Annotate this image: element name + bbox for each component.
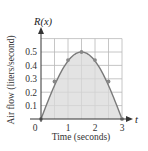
function-label: R(x) [33, 16, 53, 28]
data-point [53, 80, 57, 84]
y-tick-labels: 0.10.20.30.40.5 [25, 47, 37, 111]
data-point [80, 50, 84, 54]
x-tick-label: 0 [33, 123, 38, 133]
x-axis-variable-label: t [135, 114, 139, 125]
data-point [66, 58, 70, 62]
y-tick-label: 0.3 [25, 74, 37, 84]
y-axis-title: Air flow (liters/second) [6, 35, 17, 124]
x-axis-arrow-icon [126, 116, 133, 122]
x-tick-label: 3 [120, 123, 125, 133]
y-tick-label: 0.1 [25, 101, 37, 111]
y-tick-label: 0.5 [25, 47, 37, 57]
data-point [93, 58, 97, 62]
data-point [107, 80, 111, 84]
x-axis-title: Time (seconds) [52, 132, 111, 143]
area-fill [41, 52, 122, 119]
y-tick-label: 0.2 [25, 88, 37, 98]
y-tick-label: 0.4 [25, 61, 37, 71]
chart: 0123 0.10.20.30.40.5 R(x) t Time (second… [0, 0, 148, 151]
y-axis-arrow-icon [38, 27, 44, 34]
